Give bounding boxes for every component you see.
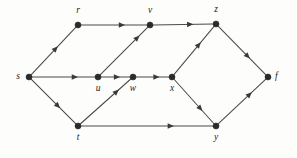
graph-node-u[interactable] [95, 74, 101, 80]
nodes-layer [26, 21, 271, 129]
node-label-r: r [76, 6, 80, 16]
edge-x-to-z [174, 26, 214, 74]
arrowhead-w-to-x [153, 74, 159, 79]
node-label-y: y [214, 133, 218, 143]
graph-canvas [0, 0, 297, 158]
node-label-t: t [77, 133, 80, 143]
node-label-x: x [170, 84, 174, 94]
graph-node-x[interactable] [169, 74, 175, 80]
graph-node-y[interactable] [213, 123, 219, 129]
graph-node-z[interactable] [213, 21, 219, 27]
graph-node-s[interactable] [26, 74, 32, 80]
node-label-f: f [275, 72, 278, 82]
graph-node-v[interactable] [147, 22, 153, 28]
arrowhead-v-to-z [187, 22, 193, 27]
graph-node-f[interactable] [265, 74, 271, 80]
edge-u-to-v [100, 27, 148, 75]
edge-t-to-w [80, 79, 131, 124]
node-label-s: s [16, 72, 20, 82]
edge-x-to-y [174, 79, 214, 124]
edge-v-to-z [153, 24, 213, 25]
node-label-u: u [96, 84, 101, 94]
edge-s-to-r [31, 27, 76, 75]
edge-s-to-t [31, 79, 76, 124]
arrowhead-u-to-w [114, 74, 120, 79]
node-label-w: w [130, 84, 136, 94]
graph-figure: srtuwvxzyf [0, 0, 297, 158]
edges-layer [31, 24, 266, 126]
graph-node-r[interactable] [75, 22, 81, 28]
arrowhead-t-to-y [168, 123, 174, 128]
node-label-z: z [214, 5, 218, 15]
arrowhead-r-to-v [119, 22, 125, 27]
node-label-v: v [148, 6, 152, 16]
arrowhead-s-to-u [72, 74, 78, 79]
edge-z-to-f [218, 26, 266, 75]
edge-y-to-f [218, 79, 266, 124]
graph-node-t[interactable] [75, 123, 81, 129]
graph-node-w[interactable] [130, 74, 136, 80]
arrowheads-layer [52, 22, 252, 129]
